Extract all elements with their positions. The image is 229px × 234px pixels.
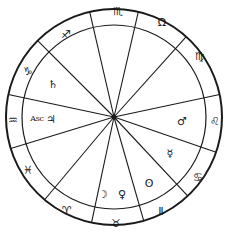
mercury-icon: ☿ bbox=[167, 148, 174, 159]
center-hub bbox=[112, 115, 117, 120]
gemini-icon: Ⅱ bbox=[158, 206, 163, 217]
aries-icon: ♈ bbox=[62, 205, 72, 216]
capricorn-icon: ♑ bbox=[23, 66, 33, 77]
mars-icon: ♂ bbox=[177, 116, 187, 127]
sagittarius-icon: ♐ bbox=[61, 29, 71, 40]
libra-icon: Ω bbox=[158, 17, 166, 28]
scorpio-icon: ♏ bbox=[113, 6, 123, 17]
moon-icon: ☽ bbox=[98, 189, 108, 200]
aquarius-icon: ♒ bbox=[8, 115, 18, 126]
pisces-icon: ♓ bbox=[23, 165, 33, 176]
cancer-icon: ♋ bbox=[193, 172, 203, 183]
sun-icon: ʘ bbox=[145, 178, 154, 189]
virgo-icon: ♍ bbox=[195, 51, 205, 62]
leo-icon: ♌ bbox=[210, 116, 220, 127]
taurus-icon: ♉ bbox=[111, 218, 121, 229]
jupiter-icon: ♃ bbox=[46, 114, 56, 125]
saturn-icon: ♄ bbox=[48, 79, 58, 90]
ascendant-label: Asc bbox=[30, 115, 43, 123]
venus-icon: ♀ bbox=[118, 189, 126, 200]
